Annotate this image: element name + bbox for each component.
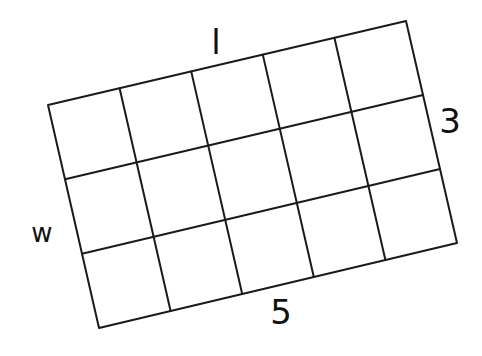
width-value-label: 3 xyxy=(439,104,461,138)
column-divider xyxy=(191,71,242,294)
grid-lines xyxy=(65,38,440,311)
column-divider xyxy=(120,88,171,311)
column-divider xyxy=(263,55,314,277)
row-divider xyxy=(65,95,423,179)
width-symbol-label: w xyxy=(31,220,52,246)
grid-diagram xyxy=(0,0,482,356)
rectangle-outline xyxy=(48,21,457,328)
column-divider xyxy=(334,38,385,260)
row-divider xyxy=(82,169,440,254)
length-value-label: 5 xyxy=(270,295,292,329)
length-symbol-label: l xyxy=(211,25,220,59)
